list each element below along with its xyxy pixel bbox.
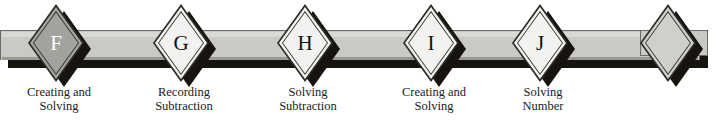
timeline-band — [0, 30, 700, 60]
caption-h: Solving Subtraction — [242, 85, 374, 120]
caption-f: Creating and Solving — [0, 85, 125, 120]
caption-line-3 — [242, 113, 374, 120]
caption-line-1: Creating and — [27, 85, 91, 99]
caption-line-2: Number — [523, 99, 564, 113]
caption-line-3 — [118, 113, 250, 120]
caption-line-1: Creating and — [402, 85, 466, 99]
milestone-node-unlabeled[interactable] — [640, 4, 702, 86]
milestone-node-i[interactable]: I — [403, 4, 465, 86]
milestone-letter: I — [403, 4, 459, 82]
milestone-node-f[interactable]: F — [28, 4, 90, 86]
milestone-letter — [640, 4, 696, 82]
milestone-letter: G — [153, 4, 209, 82]
caption-line-2: Solving — [415, 99, 454, 113]
caption-line-1: Solving — [524, 85, 563, 99]
caption-line-2: Subtraction — [279, 99, 337, 113]
band-highlight-edge — [2, 32, 698, 37]
milestone-letter: H — [277, 4, 333, 82]
milestone-node-j[interactable]: J — [512, 4, 574, 86]
milestone-node-h[interactable]: H — [277, 4, 339, 86]
caption-line-1: Solving — [289, 85, 328, 99]
milestone-letter: F — [28, 4, 84, 82]
milestone-letter: J — [512, 4, 568, 82]
milestone-node-g[interactable]: G — [153, 4, 215, 86]
caption-line-1: Recording — [158, 85, 210, 99]
caption-line-3 — [0, 113, 125, 120]
diagram-canvas: F G H I J — [0, 0, 716, 123]
caption-line-2: Solving — [40, 99, 79, 113]
caption-line-2: Subtraction — [155, 99, 213, 113]
band-lowlight-edge — [2, 57, 698, 60]
caption-g: Recording Subtraction — [118, 85, 250, 120]
caption-line-3: ... — [477, 113, 609, 120]
caption-j: Solving Number ... — [477, 85, 609, 120]
